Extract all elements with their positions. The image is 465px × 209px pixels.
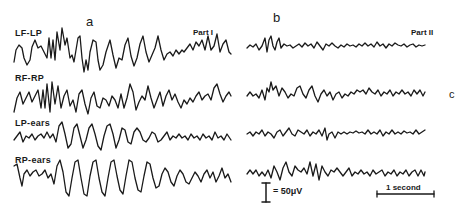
trace-a-lp-ears: [14, 122, 231, 150]
trace-b-lf-lp: [247, 36, 425, 52]
trace-a-rp-ears: [14, 160, 231, 196]
trace-b-rp-ears: [247, 162, 425, 180]
trace-b-rf-rp: [247, 82, 425, 102]
amplitude-scale-bar: [262, 183, 270, 202]
trace-a-lf-lp: [14, 28, 231, 72]
trace-a-rf-rp: [14, 82, 231, 114]
trace-b-lp-ears: [247, 128, 425, 140]
eeg-traces: [0, 0, 465, 209]
eeg-figure: a b Part I Part II LF-LP RF-RP LP-ears R…: [0, 0, 465, 209]
amplitude-scale-label: = 50μV: [273, 186, 302, 196]
time-scale-label: 1 second: [386, 183, 421, 192]
